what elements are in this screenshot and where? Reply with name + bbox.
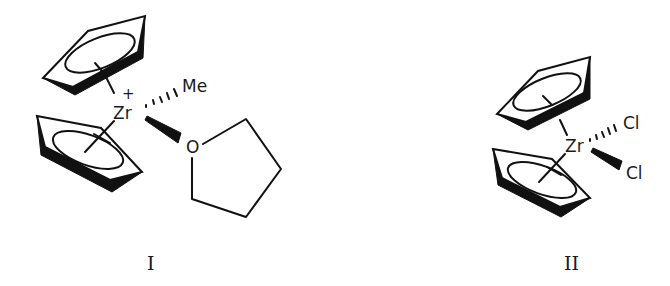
thf-ring: O xyxy=(186,119,281,217)
structure-II: Zr Cl Cl II xyxy=(493,57,643,274)
zr-atom-II: Zr xyxy=(565,136,584,156)
diagram-canvas: Zr + Me O I xyxy=(0,0,670,286)
hashed-bond-cl xyxy=(590,125,616,141)
structure-I: Zr + Me O I xyxy=(37,16,281,274)
hashed-bond-me xyxy=(146,89,177,107)
charge-plus-I: + xyxy=(122,85,135,103)
oxygen-atom: O xyxy=(186,137,199,157)
cp-ring-top-I xyxy=(43,16,145,95)
cl-atom-upper: Cl xyxy=(623,113,640,133)
cp-ring-bottom-II xyxy=(493,149,590,217)
zr-atom-I: Zr xyxy=(113,103,132,123)
caption-II: II xyxy=(564,252,579,274)
caption-I: I xyxy=(147,252,155,274)
cp-ring-bottom-I xyxy=(37,116,142,192)
cl-atom-lower: Cl xyxy=(626,163,643,183)
wedge-bond-o xyxy=(145,116,181,143)
cp-ring-top-II xyxy=(497,57,590,135)
me-group: Me xyxy=(182,76,207,96)
wedge-bond-cl xyxy=(591,148,622,170)
